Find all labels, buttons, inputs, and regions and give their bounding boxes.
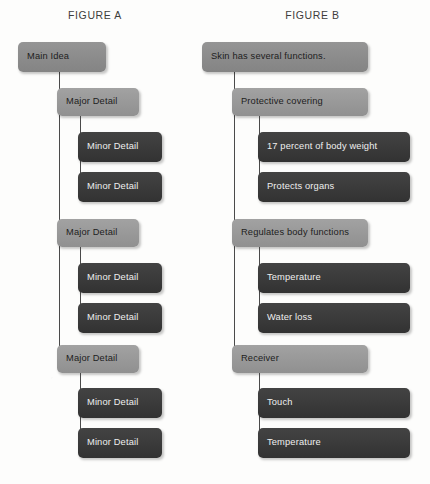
node-label: Skin has several functions. (211, 52, 326, 61)
node-label: Touch (267, 398, 293, 407)
node-label: Main Idea (27, 52, 69, 61)
diagram-canvas: FIGURE A Main Idea Major Detail Minor De… (0, 0, 430, 484)
node-label: Protects organs (267, 182, 334, 191)
figure-a-node-minor-detail-1-2[interactable]: Minor Detail (78, 172, 162, 202)
figure-a-node-minor-detail-1-1[interactable]: Minor Detail (78, 132, 162, 162)
node-label: Water loss (267, 313, 312, 322)
node-label: Minor Detail (87, 398, 138, 407)
figure-b-node-touch[interactable]: Touch (258, 388, 410, 418)
figure-b-title: FIGURE B (215, 9, 410, 21)
node-label: Major Detail (66, 354, 117, 363)
node-label: Temperature (267, 273, 321, 282)
node-label: Protective covering (241, 97, 323, 106)
node-label: Minor Detail (87, 142, 138, 151)
figure-b-node-temperature-2[interactable]: Temperature (258, 428, 410, 458)
figure-b-node-protective-covering[interactable]: Protective covering (232, 88, 368, 116)
node-label: Minor Detail (87, 438, 138, 447)
figure-a-node-major-detail-2[interactable]: Major Detail (57, 219, 139, 247)
figure-a-title: FIGURE A (0, 9, 190, 21)
node-label: Receiver (241, 354, 279, 363)
figure-b-node-body-weight[interactable]: 17 percent of body weight (258, 132, 410, 162)
figure-a-node-main-idea[interactable]: Main Idea (18, 42, 106, 72)
figure-a-node-minor-detail-3-2[interactable]: Minor Detail (78, 428, 162, 458)
figure-b-node-water-loss[interactable]: Water loss (258, 303, 410, 333)
node-label: Major Detail (66, 228, 117, 237)
figure-b-node-regulates-body-functions[interactable]: Regulates body functions (232, 219, 368, 247)
node-label: Minor Detail (87, 273, 138, 282)
node-label: Minor Detail (87, 313, 138, 322)
figure-a-node-major-detail-1[interactable]: Major Detail (57, 88, 139, 116)
figure-b-node-receiver[interactable]: Receiver (232, 345, 368, 373)
figure-a-node-minor-detail-2-2[interactable]: Minor Detail (78, 303, 162, 333)
node-label: Major Detail (66, 97, 117, 106)
figure-a-node-minor-detail-2-1[interactable]: Minor Detail (78, 263, 162, 293)
figure-a-node-major-detail-3[interactable]: Major Detail (57, 345, 139, 373)
node-label: Temperature (267, 438, 321, 447)
node-label: Regulates body functions (241, 228, 349, 237)
node-label: 17 percent of body weight (267, 142, 377, 151)
figure-b-node-root[interactable]: Skin has several functions. (202, 42, 368, 72)
node-label: Minor Detail (87, 182, 138, 191)
figure-a-node-minor-detail-3-1[interactable]: Minor Detail (78, 388, 162, 418)
figure-b-node-protects-organs[interactable]: Protects organs (258, 172, 410, 202)
figure-b-node-temperature-1[interactable]: Temperature (258, 263, 410, 293)
